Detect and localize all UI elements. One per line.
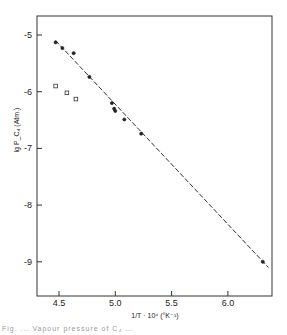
fit-line (56, 41, 269, 268)
y-tick-label: -5 (24, 30, 32, 40)
data-point-circle (54, 41, 57, 44)
data-point-square (74, 97, 78, 101)
data-point-circle (140, 132, 143, 135)
x-tick-label: 6.0 (222, 298, 235, 308)
y-axis-label: lg P_C₄ (Atm.) (13, 108, 21, 153)
data-point-circle (72, 52, 75, 55)
x-axis-ticks: 4.55.05.56.0 (53, 291, 234, 308)
y-axis-ticks: -5-6-7-8-9 (24, 30, 42, 267)
x-tick-label: 5.0 (109, 298, 122, 308)
data-point-circle (261, 260, 264, 263)
x-axis-label: 1/T · 10⁴ (°K⁻¹) (131, 312, 178, 320)
data-point-circle (123, 118, 126, 121)
data-point-square (65, 91, 69, 95)
x-tick-label: 4.5 (53, 298, 66, 308)
fit-line-segment (56, 41, 269, 268)
y-tick-label: -8 (24, 200, 32, 210)
y-tick-label: -7 (24, 143, 32, 153)
x-tick-label: 5.5 (165, 298, 178, 308)
figure-caption: Fig. ... Vapour pressure of C₄ ... (2, 325, 134, 332)
data-point-circle (61, 46, 64, 49)
y-tick-label: -9 (24, 257, 32, 267)
data-point-square (54, 84, 58, 88)
data-point-circle (110, 101, 113, 104)
y-tick-label: -6 (24, 87, 32, 97)
data-point-circle (88, 75, 91, 78)
chart: -5-6-7-8-9 4.55.05.56.0 1/T · 10⁴ (°K⁻¹)… (0, 0, 287, 325)
data-point-circle (114, 109, 117, 112)
